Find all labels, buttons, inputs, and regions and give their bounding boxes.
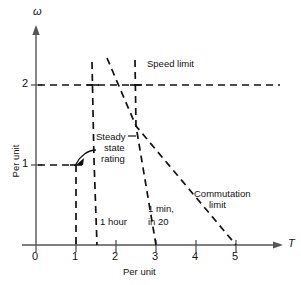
commutation-limit-label-line1: Commutation <box>194 188 251 199</box>
y-axis-title-wrapper: Per unit <box>5 131 23 191</box>
commutation-limit-label-line2: limit <box>209 199 226 210</box>
one-min-label-line2: in 20 <box>148 216 169 227</box>
x-axis-ticks <box>36 240 236 252</box>
series-steady-state-rating <box>38 165 76 245</box>
x-tick-label-2: 2 <box>112 251 118 262</box>
x-axis-symbol: T <box>288 238 295 249</box>
y-axis-symbol: ω <box>33 6 42 17</box>
chart-canvas <box>0 0 301 285</box>
x-tick-label-1: 1 <box>72 251 78 262</box>
steady-state-label-line1: Steady <box>96 131 126 142</box>
speed-limit-label: Speed limit <box>147 58 194 69</box>
y-axis-arrowhead <box>32 25 39 35</box>
dc-machine-capability-chart: ω T 0 1 2 3 4 5 1 2 Per unit Per unit Sp… <box>0 0 301 285</box>
x-tick-label-4: 4 <box>192 251 198 262</box>
one-min-label-line1: 1 min, <box>148 203 174 214</box>
x-tick-label-0: 0 <box>32 251 38 262</box>
y-tick-label-2: 2 <box>22 78 28 89</box>
steady-state-label-line2: state <box>104 142 125 153</box>
steady-state-label-line3: rating <box>101 153 125 164</box>
x-tick-label-5: 5 <box>232 251 238 262</box>
series-one-hour <box>92 62 97 245</box>
x-axis-title: Per unit <box>123 266 156 277</box>
one-hour-label: 1 hour <box>100 216 127 227</box>
x-tick-label-3: 3 <box>152 251 158 262</box>
x-axis-arrowhead <box>273 241 283 248</box>
y-axis-title: Per unit <box>10 145 21 178</box>
